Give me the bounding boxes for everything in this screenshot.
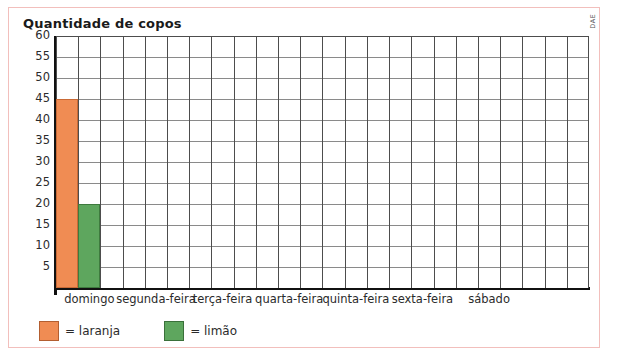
y-tick-label: 55 <box>10 51 50 63</box>
y-tick-label: 20 <box>10 198 50 210</box>
plot-background <box>56 36 589 288</box>
y-tick-label: 30 <box>10 156 50 168</box>
legend-item-laranja: = laranja <box>39 321 120 341</box>
x-axis-tick-labels: domingosegunda-feiraterça-feiraquarta-fe… <box>56 293 589 311</box>
legend-swatch-laranja <box>39 321 59 341</box>
bar-laranja-domingo <box>56 99 78 288</box>
grid-lines <box>56 36 589 288</box>
grid-right-edge <box>588 36 589 288</box>
x-tick-label: quarta-feira <box>255 293 323 307</box>
y-tick-label: 40 <box>10 114 50 126</box>
x-tick-label: sexta-feira <box>392 293 453 307</box>
bar-limão-domingo <box>78 204 100 288</box>
y-tick-label: 10 <box>10 240 50 252</box>
x-tick-label: terça-feira <box>193 293 253 307</box>
legend-label-limao: = limão <box>190 324 237 338</box>
y-tick-label: 45 <box>10 93 50 105</box>
y-tick-label: 35 <box>10 135 50 147</box>
chart-legend: = laranja = limão <box>39 321 237 341</box>
x-tick-label: domingo <box>64 293 114 307</box>
chart-figure: Quantidade de copos 60555045403530252015… <box>8 7 600 348</box>
source-credit: DAE <box>589 14 597 29</box>
y-tick-label: 15 <box>10 219 50 231</box>
x-tick-label: segunda-feira <box>116 293 196 307</box>
y-tick-label: 60 <box>10 30 50 42</box>
y-tick-label: 50 <box>10 72 50 84</box>
x-tick-label: quinta-feira <box>322 293 389 307</box>
legend-label-laranja: = laranja <box>65 324 120 338</box>
y-axis-tick-labels: 60555045403530252015105 <box>9 36 50 288</box>
plot-area <box>56 36 589 288</box>
grid-top-edge <box>56 36 589 37</box>
legend-swatch-limao <box>164 321 184 341</box>
y-tick-label: 25 <box>10 177 50 189</box>
x-tick-label: sábado <box>468 293 510 307</box>
y-tick-label: 5 <box>10 261 50 273</box>
legend-item-limao: = limão <box>164 321 237 341</box>
